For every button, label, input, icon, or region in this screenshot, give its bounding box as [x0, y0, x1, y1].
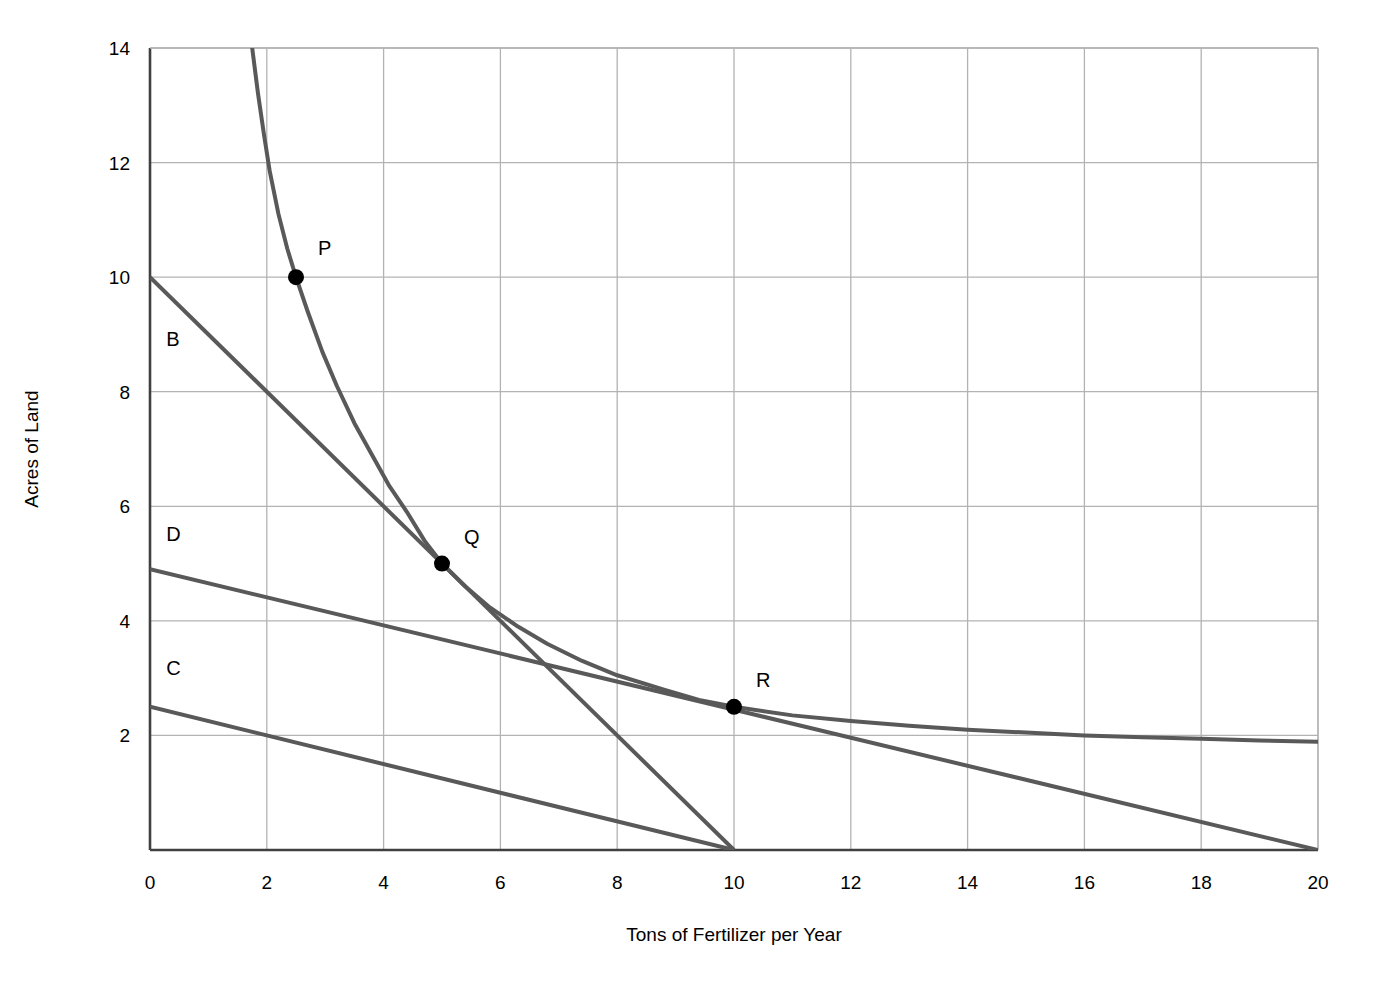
- x-tick-label: 8: [612, 872, 623, 893]
- x-tick-label: 18: [1191, 872, 1212, 893]
- y-tick-label: 6: [119, 496, 130, 517]
- point-label-R: R: [756, 669, 770, 691]
- data-point-P: [288, 269, 304, 285]
- x-tick-label: 2: [262, 872, 273, 893]
- y-tick-label: 2: [119, 725, 130, 746]
- x-axis-title: Tons of Fertilizer per Year: [626, 924, 842, 945]
- x-tick-label: 16: [1074, 872, 1095, 893]
- curve-label-D: D: [166, 523, 180, 545]
- data-point-Q: [434, 556, 450, 572]
- y-tick-label: 10: [109, 267, 130, 288]
- x-tick-label: 20: [1307, 872, 1328, 893]
- y-tick-label: 14: [109, 38, 131, 59]
- y-tick-label: 4: [119, 611, 130, 632]
- curve-label-C: C: [166, 657, 180, 679]
- y-axis-title: Acres of Land: [21, 390, 42, 507]
- x-tick-label: 0: [145, 872, 156, 893]
- chart-canvas: BDCPQR 024681012141618202468101214 Tons …: [0, 0, 1382, 1000]
- isoquant-chart: BDCPQR 024681012141618202468101214 Tons …: [0, 0, 1382, 1000]
- curve-label-B: B: [166, 328, 179, 350]
- x-tick-label: 10: [723, 872, 744, 893]
- data-point-R: [726, 699, 742, 715]
- x-tick-label: 4: [378, 872, 389, 893]
- x-tick-label: 12: [840, 872, 861, 893]
- x-tick-label: 14: [957, 872, 979, 893]
- y-tick-label: 8: [119, 382, 130, 403]
- point-label-Q: Q: [464, 526, 480, 548]
- y-tick-label: 12: [109, 153, 130, 174]
- x-tick-label: 6: [495, 872, 506, 893]
- point-label-P: P: [318, 237, 331, 259]
